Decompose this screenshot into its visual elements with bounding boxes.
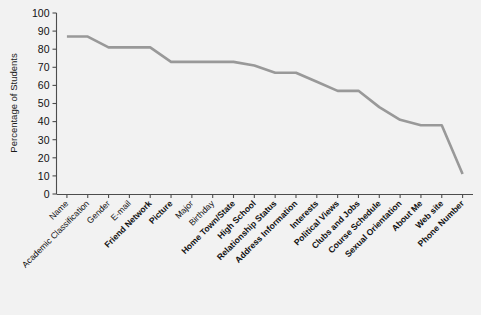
x-tick-label: Gender — [85, 198, 112, 225]
y-tick-label: 10 — [38, 170, 50, 182]
y-tick-label: 20 — [38, 152, 50, 164]
y-tick-label: 60 — [38, 79, 50, 91]
y-axis-label-text: Percentage of Students — [8, 53, 19, 153]
x-tick-label: Picture — [147, 198, 175, 226]
line-chart: Percentage of Students 01020304050607080… — [0, 0, 481, 315]
x-axis-labels: NameAcademic ClassificationGenderE-mailF… — [20, 198, 467, 270]
y-axis-ticks: 0102030405060708090100 — [32, 7, 57, 200]
y-tick-label: 30 — [38, 134, 50, 146]
y-tick-label: 80 — [38, 43, 50, 55]
y-tick-label: 90 — [38, 25, 50, 37]
y-axis-label: Percentage of Students — [8, 53, 19, 153]
data-series-line — [67, 37, 463, 175]
y-tick-label: 0 — [44, 188, 50, 200]
y-tick-label: 50 — [38, 97, 50, 109]
y-tick-label: 40 — [38, 115, 50, 127]
chart-container: Percentage of Students 01020304050607080… — [0, 0, 481, 315]
y-tick-label: 70 — [38, 61, 50, 73]
y-tick-label: 100 — [32, 7, 50, 19]
